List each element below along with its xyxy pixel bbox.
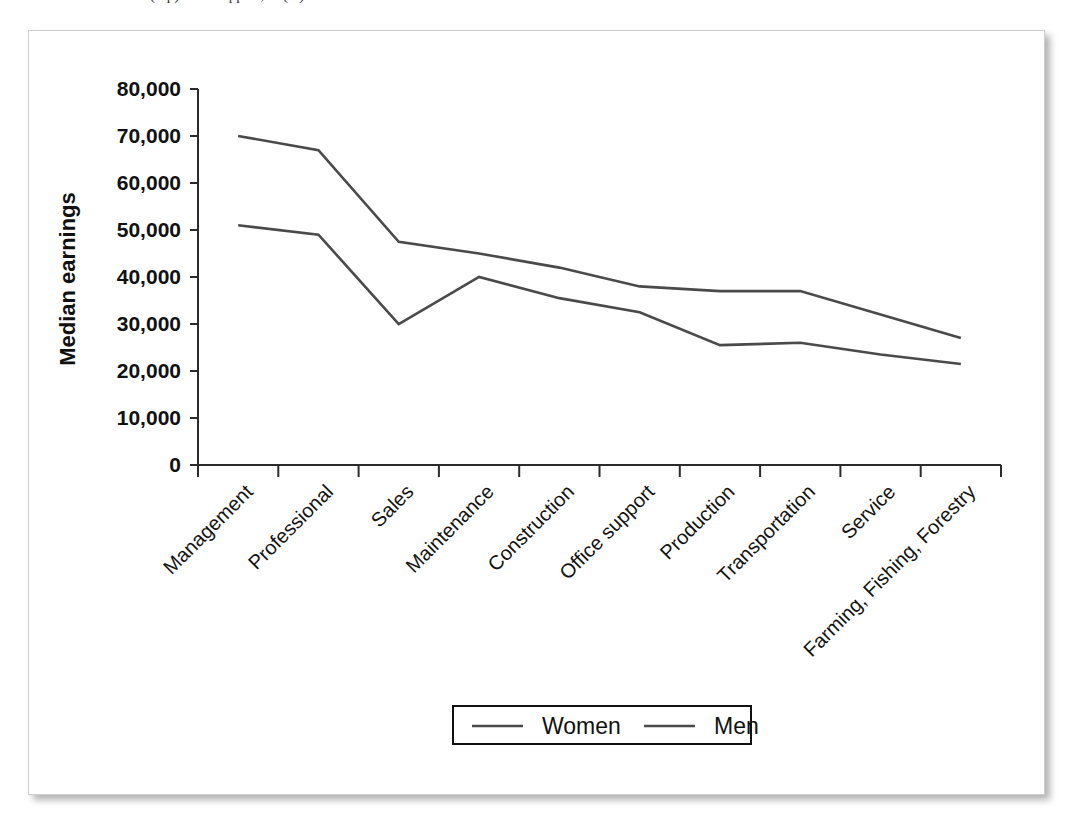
y-axis: 010,00020,00030,00040,00050,00060,00070,… xyxy=(117,77,198,476)
y-tick-label: 0 xyxy=(169,453,181,476)
y-tick-label: 30,000 xyxy=(117,312,181,335)
y-tick-labels: 010,00020,00030,00040,00050,00060,00070,… xyxy=(117,77,181,476)
x-tick-label: Sales xyxy=(367,480,418,531)
x-tick-label: Professional xyxy=(244,480,337,573)
chart-legend: Women Men xyxy=(453,706,759,744)
y-axis-title: Median earnings xyxy=(55,192,80,366)
caption-strip: (top) ....... Support, ... (...) xyxy=(0,0,1075,16)
x-tick-label: Farming, Fishing, Forestry xyxy=(799,480,980,661)
y-tick-label: 10,000 xyxy=(117,406,181,429)
y-tick-label: 20,000 xyxy=(117,359,181,382)
legend-label-women: Women xyxy=(542,713,621,739)
line-chart: 010,00020,00030,00040,00050,00060,00070,… xyxy=(29,31,1044,794)
legend-label-men: Men xyxy=(714,713,759,739)
y-tick-label: 60,000 xyxy=(117,171,181,194)
x-tick-marks xyxy=(198,465,1001,477)
x-tick-label: Management xyxy=(159,480,257,578)
caption-text: (top) ....... Support, ... (...) xyxy=(150,0,304,4)
x-axis: ManagementProfessionalSalesMaintenanceCo… xyxy=(159,465,1001,661)
y-tick-marks xyxy=(190,89,198,465)
y-tick-label: 40,000 xyxy=(117,265,181,288)
series-lines xyxy=(238,136,961,364)
series-line-women xyxy=(238,225,961,364)
y-tick-label: 70,000 xyxy=(117,124,181,147)
series-line-men xyxy=(238,136,961,338)
y-tick-label: 80,000 xyxy=(117,77,181,100)
x-tick-label: Production xyxy=(656,480,739,563)
x-tick-labels: ManagementProfessionalSalesMaintenanceCo… xyxy=(159,480,980,661)
x-tick-label: Service xyxy=(837,480,900,543)
figure-frame: 010,00020,00030,00040,00050,00060,00070,… xyxy=(28,30,1045,795)
y-tick-label: 50,000 xyxy=(117,218,181,241)
